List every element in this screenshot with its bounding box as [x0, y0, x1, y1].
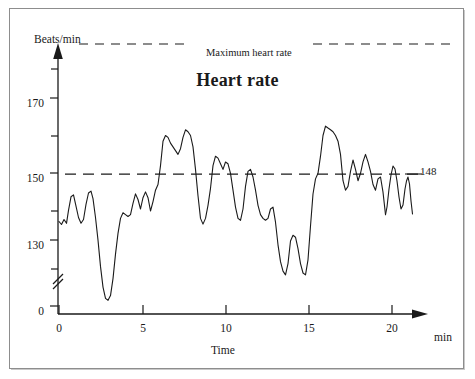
heart-rate-plot	[10, 9, 465, 370]
max-heart-rate-value-annotation: 148	[420, 165, 437, 177]
figure-frame: Beats/min Maximum heart rate 170 150 130…	[9, 8, 464, 369]
y-tick-label-0: 0	[10, 305, 44, 317]
x-tick-label-15: 15	[297, 322, 321, 334]
x-tick-label-5: 5	[131, 322, 155, 334]
y-tick-label-130: 130	[10, 239, 44, 251]
x-axis-ticks	[59, 305, 392, 314]
heart-rate-trace	[59, 126, 386, 300]
heart-rate-trace-tail	[386, 166, 413, 215]
y-tick-label-150: 150	[10, 172, 44, 184]
x-tick-label-10: 10	[214, 322, 238, 334]
x-axis-arrow-icon	[412, 309, 428, 318]
x-axis-title: Time	[211, 344, 235, 356]
chart-page: Beats/min Maximum heart rate 170 150 130…	[0, 0, 475, 379]
y-axis-ticks	[50, 69, 58, 306]
y-axis-arrow-icon	[53, 43, 63, 59]
chart-title: Heart rate	[0, 70, 475, 91]
x-tick-label-0: 0	[47, 322, 71, 334]
x-axis-unit-label: min	[434, 331, 452, 343]
x-tick-label-20: 20	[380, 322, 404, 334]
y-axis-title: Beats/min	[34, 33, 81, 45]
legend-label: Maximum heart rate	[206, 47, 292, 58]
y-tick-label-170: 170	[10, 97, 44, 109]
